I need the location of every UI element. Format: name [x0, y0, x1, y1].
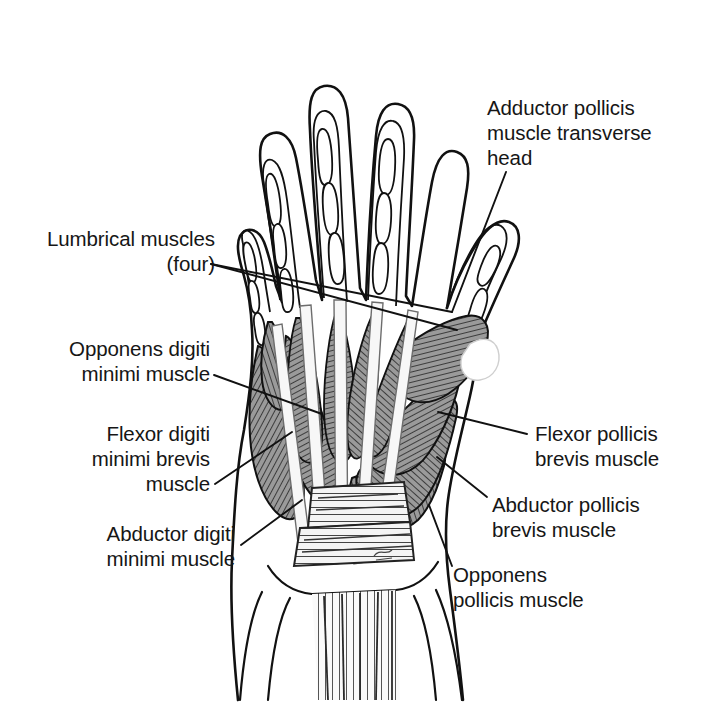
label-opponens-pollicis-muscle: Opponens pollicis muscle	[453, 562, 668, 612]
figure-canvas: Adductor pollicis muscle transverse head…	[0, 0, 716, 722]
label-opponens-digiti-minimi-muscle: Opponens digiti minimi muscle	[20, 336, 210, 386]
label-abductor-pollicis-brevis-muscle: Abductor pollicis brevis muscle	[492, 492, 707, 542]
label-flexor-digiti-minimi-brevis-muscle: Flexor digiti minimi brevis muscle	[20, 421, 210, 496]
forearm-tendon-bundle	[312, 590, 400, 700]
flexor-retinaculum	[294, 482, 414, 566]
label-lumbrical-muscles: Lumbrical muscles (four)	[40, 226, 215, 276]
label-flexor-pollicis-brevis-muscle: Flexor pollicis brevis muscle	[535, 421, 715, 471]
label-abductor-digiti-minimi-muscle: Abductor digiti minimi muscle	[20, 521, 235, 571]
label-adductor-pollicis-transverse-head: Adductor pollicis muscle transverse head	[487, 95, 707, 170]
